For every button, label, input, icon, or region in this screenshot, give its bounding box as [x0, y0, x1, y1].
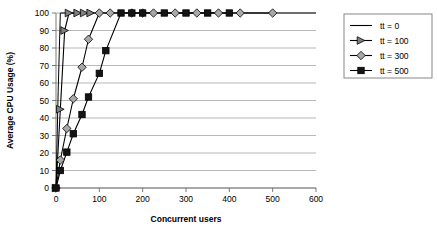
series-marker-2: [193, 9, 201, 17]
series-marker-3: [226, 10, 232, 16]
series-marker-3: [139, 10, 145, 16]
series-marker-2: [171, 9, 179, 17]
x-tick-label: 100: [92, 194, 106, 204]
x-axis-title: Concurrent users: [151, 214, 222, 224]
x-tick-label: 300: [179, 194, 193, 204]
series-marker-2: [236, 9, 244, 17]
y-tick-label: 70: [40, 61, 50, 71]
series-marker-2: [95, 9, 103, 17]
series-marker-3: [53, 185, 59, 191]
series-marker-3: [70, 131, 76, 137]
series-marker-2: [268, 9, 276, 17]
y-axis-title: Average CPU Usage (%): [5, 52, 15, 149]
series-marker-1: [87, 9, 95, 17]
series-marker-3: [183, 10, 189, 16]
y-tick-label: 0: [44, 183, 49, 193]
series-marker-2: [106, 9, 114, 17]
series-marker-3: [161, 10, 167, 16]
series-marker-3: [118, 10, 124, 16]
series-marker-3: [79, 111, 85, 117]
legend-label-2: tt = 300: [380, 51, 409, 61]
y-tick-label: 100: [35, 8, 49, 18]
chart-canvas: 0100200300400500600010203040506070809010…: [0, 0, 437, 245]
series-marker-1: [65, 9, 73, 17]
x-tick-label: 400: [222, 194, 236, 204]
legend-label-0: tt = 0: [380, 21, 399, 31]
series-marker-3: [57, 167, 63, 173]
x-tick-label: 200: [136, 194, 150, 204]
series-marker-2: [78, 63, 86, 71]
series-marker-2: [84, 35, 92, 43]
x-tick-label: 500: [266, 194, 280, 204]
legend-marker-3: [358, 67, 364, 73]
y-tick-label: 90: [40, 26, 50, 36]
legend-label-1: tt = 100: [380, 36, 409, 46]
y-tick-label: 80: [40, 43, 50, 53]
series-marker-3: [85, 94, 91, 100]
series-marker-3: [96, 70, 102, 76]
series-marker-3: [64, 149, 70, 155]
series-marker-2: [149, 9, 157, 17]
x-tick-label: 600: [309, 194, 323, 204]
x-tick-label: 0: [54, 194, 59, 204]
legend-label-3: tt = 500: [380, 66, 409, 76]
y-tick-label: 30: [40, 131, 50, 141]
series-marker-3: [103, 47, 109, 53]
y-tick-label: 20: [40, 148, 50, 158]
y-tick-label: 60: [40, 78, 50, 88]
chart-figure: 0100200300400500600010203040506070809010…: [0, 0, 437, 245]
y-tick-label: 50: [40, 96, 50, 106]
series-marker-2: [214, 9, 222, 17]
y-tick-label: 10: [40, 166, 50, 176]
y-tick-label: 40: [40, 113, 50, 123]
series-marker-3: [204, 10, 210, 16]
figure-caption: [4, 237, 434, 245]
series-marker-2: [69, 95, 77, 103]
series-marker-3: [129, 10, 135, 16]
